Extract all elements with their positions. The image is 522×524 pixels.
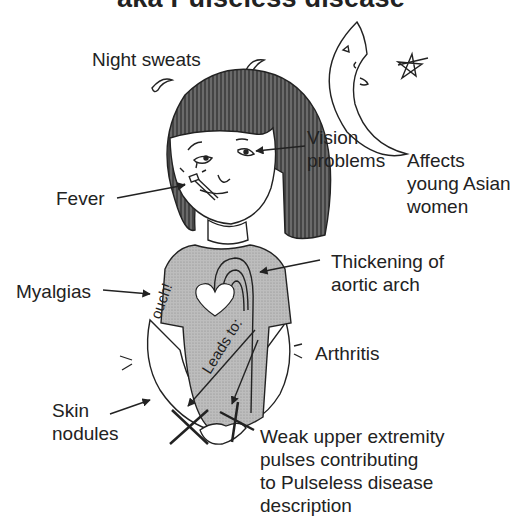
label-arthritis: Arthritis <box>315 342 379 365</box>
label-thickening: Thickening of aortic arch <box>331 250 444 296</box>
label-vision-problems: Vision problems <box>307 126 385 172</box>
label-fever: Fever <box>56 187 105 210</box>
label-affects: Affects young Asian women <box>407 149 511 218</box>
label-weak-pulses: Weak upper extremity pulses contributing… <box>260 425 444 517</box>
star-icon <box>398 54 428 78</box>
label-skin-nodules: Skin nodules <box>52 399 119 445</box>
label-myalgias: Myalgias <box>16 280 91 303</box>
label-night-sweats: Night sweats <box>92 48 201 71</box>
